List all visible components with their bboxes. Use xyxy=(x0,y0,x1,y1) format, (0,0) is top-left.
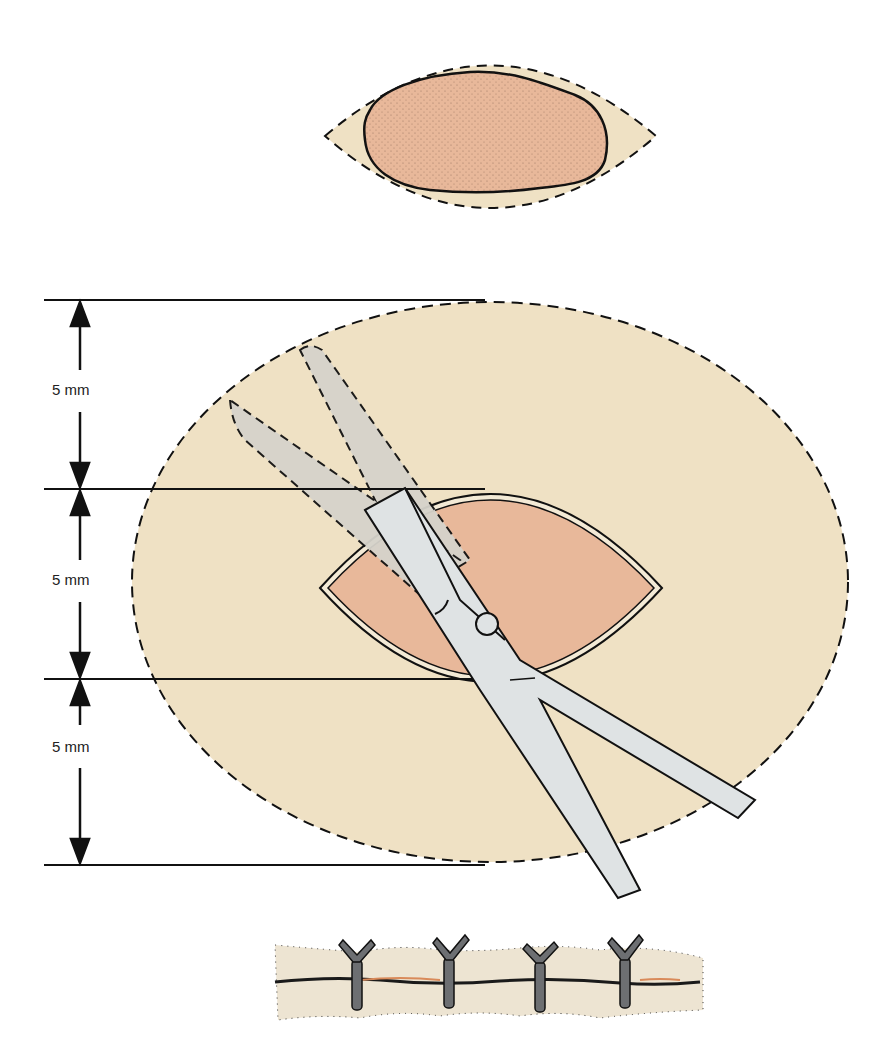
closure-panel xyxy=(275,935,703,1020)
lesion-panel xyxy=(325,65,656,208)
margin-label-3: 5 mm xyxy=(52,736,90,757)
margin-label-1: 5 mm xyxy=(52,379,90,400)
surgical-diagram xyxy=(0,0,891,1059)
excision-panel xyxy=(44,300,848,898)
margin-label-2: 5 mm xyxy=(52,569,90,590)
